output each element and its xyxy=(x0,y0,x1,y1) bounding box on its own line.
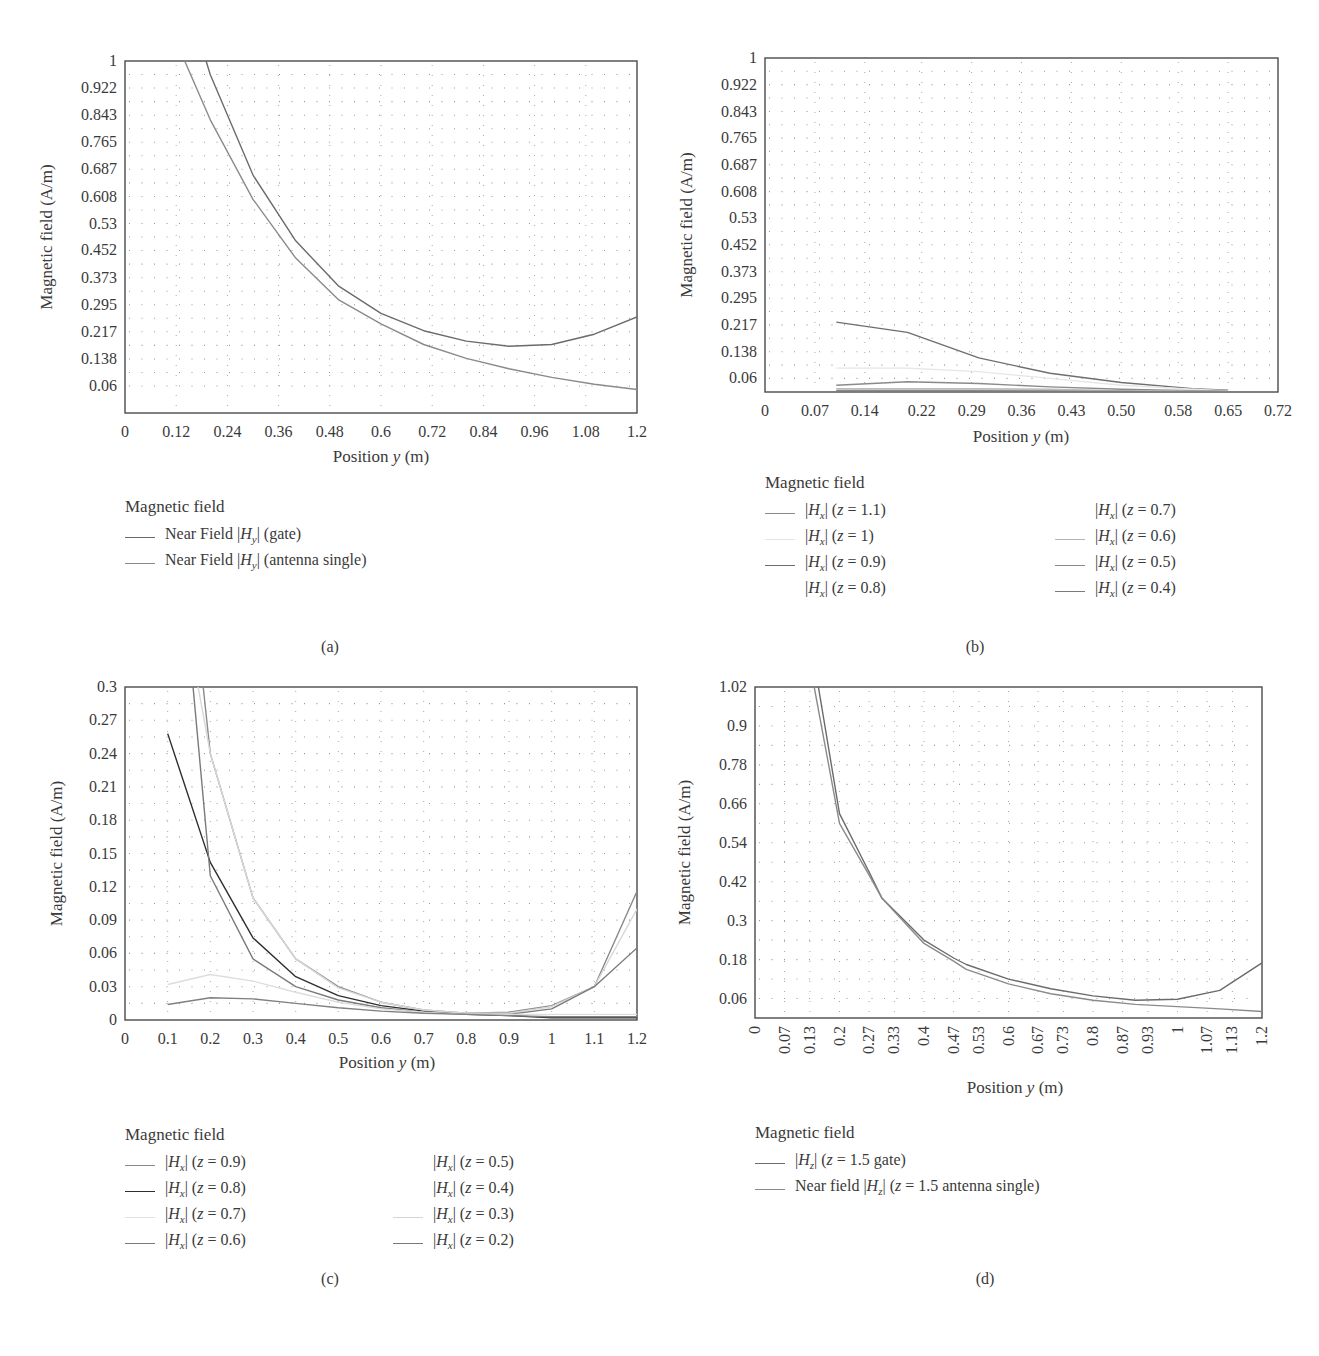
y-tick-label: 0.843 xyxy=(81,106,117,123)
y-tick-label: 0 xyxy=(109,1011,117,1028)
y-tick-label: 0.53 xyxy=(89,215,117,232)
y-axis-label: Magnetic field (A/m) xyxy=(677,152,696,297)
x-tick-label: 0.8 xyxy=(456,1030,476,1047)
x-tick-label: 0.6 xyxy=(1000,1026,1017,1046)
legend-swatch xyxy=(765,513,795,514)
x-tick-label: 0.8 xyxy=(1084,1026,1101,1046)
legend-item: |Hx| (z = 0.9) xyxy=(765,552,1055,578)
legend-item: |Hx| (z = 1) xyxy=(765,526,1055,552)
legend-label: Near Field |Hy| (antenna single) xyxy=(165,547,366,578)
legend-item: |Hx| (z = 0.4) xyxy=(393,1178,514,1204)
x-tick-label: 1.1 xyxy=(584,1030,604,1047)
x-tick-label: 0.73 xyxy=(1054,1026,1071,1054)
x-axis-label: Position y (m) xyxy=(973,427,1069,446)
y-tick-label: 0.18 xyxy=(89,811,117,828)
legend-swatch xyxy=(125,1217,155,1218)
x-tick-label: 1.2 xyxy=(627,423,647,440)
y-tick-label: 0.687 xyxy=(81,160,117,177)
x-tick-label: 0.53 xyxy=(970,1026,987,1054)
legend-item: |Hx| (z = 1.1) xyxy=(765,500,1055,526)
x-tick-label: 0.67 xyxy=(1029,1026,1046,1054)
x-tick-label: 0.36 xyxy=(265,423,293,440)
legend-item: |Hx| (z = 0.3) xyxy=(393,1204,514,1230)
y-tick-label: 0.765 xyxy=(81,133,117,150)
y-tick-label: 0.06 xyxy=(89,377,117,394)
legend-label: |Hx| (z = 0.4) xyxy=(1095,575,1176,606)
x-tick-label: 0.29 xyxy=(958,402,986,419)
y-tick-label: 0.53 xyxy=(729,209,757,226)
x-tick-label: 0.13 xyxy=(801,1026,818,1054)
x-tick-label: 0.2 xyxy=(831,1026,848,1046)
y-tick-label: 0.765 xyxy=(721,129,757,146)
y-tick-label: 0.9 xyxy=(727,717,747,734)
legend-swatch xyxy=(1055,591,1085,592)
x-tick-label: 0.12 xyxy=(162,423,190,440)
y-tick-label: 0.42 xyxy=(719,873,747,890)
legend-item: |Hx| (z = 0.6) xyxy=(1055,526,1176,552)
legend-swatch xyxy=(393,1217,423,1218)
panel-b: 10.9220.8430.7650.6870.6080.530.4520.373… xyxy=(660,40,1319,660)
legend-item: |Hx| (z = 0.8) xyxy=(125,1178,393,1204)
x-tick-label: 0.6 xyxy=(371,1030,391,1047)
y-tick-label: 0.06 xyxy=(719,990,747,1007)
legend-swatch xyxy=(125,1165,155,1166)
y-tick-label: 0.27 xyxy=(89,711,117,728)
legend-swatch xyxy=(125,563,155,564)
x-tick-label: 0 xyxy=(121,423,129,440)
legend-swatch xyxy=(1055,513,1085,514)
legend-title: Magnetic field xyxy=(125,1122,514,1148)
subfigure-label: (a) xyxy=(300,638,360,656)
y-tick-label: 0.24 xyxy=(89,745,117,762)
plot-area: 1.020.90.780.660.540.420.30.180.0600.070… xyxy=(675,678,1270,1097)
legend-item: |Hx| (z = 0.4) xyxy=(1055,578,1176,604)
legend-c: Magnetic field |Hx| (z = 0.9) |Hx| (z = … xyxy=(125,1122,514,1256)
y-tick-label: 0.217 xyxy=(721,316,757,333)
y-tick-label: 0.373 xyxy=(721,263,757,280)
legend-d: Magnetic field |Hz| (z = 1.5 gate) Near … xyxy=(755,1120,1040,1202)
y-tick-label: 0.3 xyxy=(97,678,117,695)
legend-item: |Hx| (z = 0.6) xyxy=(125,1230,393,1256)
y-tick-label: 0.3 xyxy=(727,912,747,929)
y-tick-label: 0.21 xyxy=(89,778,117,795)
x-tick-label: 0.5 xyxy=(328,1030,348,1047)
x-tick-label: 0.96 xyxy=(521,423,549,440)
x-tick-label: 0.7 xyxy=(414,1030,434,1047)
y-tick-label: 0.54 xyxy=(719,834,747,851)
legend-item: |Hx| (z = 0.9) xyxy=(125,1152,393,1178)
legend-item: |Hx| (z = 0.2) xyxy=(393,1230,514,1256)
x-axis-label: Position y (m) xyxy=(967,1078,1063,1097)
legend-swatch xyxy=(755,1163,785,1164)
y-tick-label: 0.66 xyxy=(719,795,747,812)
y-tick-label: 0.18 xyxy=(719,951,747,968)
legend-b: Magnetic field |Hx| (z = 1.1) |Hx| (z = … xyxy=(765,470,1176,604)
legend-title: Magnetic field xyxy=(125,494,366,520)
y-tick-label: 0.608 xyxy=(721,183,757,200)
y-tick-label: 0.373 xyxy=(81,269,117,286)
x-tick-label: 1.13 xyxy=(1223,1026,1240,1054)
y-tick-label: 0.15 xyxy=(89,845,117,862)
plot-area: 10.9220.8430.7650.6870.6080.530.4520.373… xyxy=(677,49,1292,446)
y-tick-label: 0.138 xyxy=(81,350,117,367)
legend-item: |Hx| (z = 0.5) xyxy=(393,1152,514,1178)
y-axis-label: Magnetic field (A/m) xyxy=(675,780,694,925)
legend-title: Magnetic field xyxy=(755,1120,1040,1146)
x-tick-label: 0.36 xyxy=(1008,402,1036,419)
legend-label: |Hx| (z = 0.2) xyxy=(433,1227,514,1258)
legend-label: Near field |Hz| (z = 1.5 antenna single) xyxy=(795,1173,1040,1204)
legend-swatch xyxy=(765,591,795,592)
x-axis-label: Position y (m) xyxy=(333,447,429,466)
y-tick-label: 0.06 xyxy=(729,369,757,386)
y-tick-label: 1 xyxy=(749,49,757,66)
legend-swatch xyxy=(125,537,155,538)
legend-swatch xyxy=(1055,539,1085,540)
x-tick-label: 0 xyxy=(746,1026,763,1034)
subfigure-label: (d) xyxy=(955,1270,1015,1288)
x-tick-label: 0.87 xyxy=(1114,1026,1131,1054)
y-tick-label: 0.922 xyxy=(81,79,117,96)
x-tick-label: 0.9 xyxy=(499,1030,519,1047)
x-tick-label: 0.48 xyxy=(316,423,344,440)
x-tick-label: 0.58 xyxy=(1164,402,1192,419)
y-tick-label: 0.452 xyxy=(721,236,757,253)
x-tick-label: 0.6 xyxy=(371,423,391,440)
plot-frame xyxy=(755,687,1262,1018)
